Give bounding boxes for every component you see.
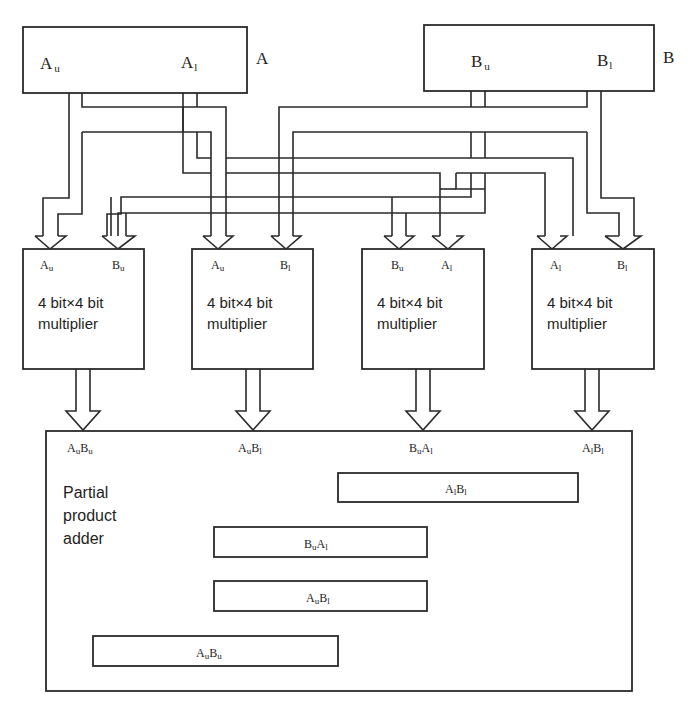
sum-layer: [0, 0, 696, 713]
